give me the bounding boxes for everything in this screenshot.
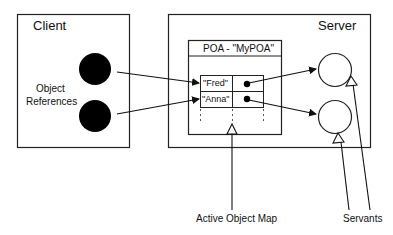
client-title: Client [33,18,66,33]
object-references-label-line2: References [26,96,77,107]
servants-annotation-line-1 [341,142,349,210]
aom-object-id-anna: "Anna" [202,94,229,104]
servant-2 [319,101,352,134]
servants-annotation-arrowhead-1 [333,133,344,143]
servants-label: Servants [343,213,382,224]
diagram-canvas [0,0,393,235]
active-object-map-label: Active Object Map [196,213,277,224]
server-title: Server [318,18,356,33]
client-box [18,15,130,148]
servant-pointer-anna [244,96,250,102]
object-references-label-line1: Object [36,83,65,94]
aom-annotation-arrowhead [227,124,237,134]
servant-1 [319,54,352,87]
object-reference-fred [79,53,111,85]
servant-pointer-fred [244,81,250,87]
poa-title: POA - "MyPOA" [203,43,274,54]
aom-object-id-fred: "Fred" [203,78,228,88]
object-reference-anna [79,100,111,132]
